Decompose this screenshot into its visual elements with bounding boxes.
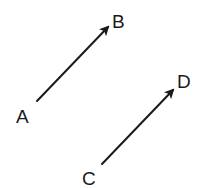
label-d: D xyxy=(177,71,191,92)
arrow-cd xyxy=(102,90,173,164)
diagram-canvas: A B C D xyxy=(0,0,207,188)
label-a: A xyxy=(16,106,29,127)
label-c: C xyxy=(82,168,96,188)
vector-diagram: A B C D xyxy=(0,0,207,188)
label-b: B xyxy=(112,11,125,32)
vector-cd: C D xyxy=(82,71,191,188)
arrow-ab xyxy=(37,27,108,101)
vector-ab: A B xyxy=(16,11,125,127)
